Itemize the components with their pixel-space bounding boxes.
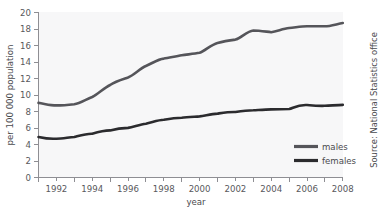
y-axis-tick-labels: 0 2 4 6 8 10 12 14 16 18 20	[20, 8, 31, 183]
y-tick-label: 8	[26, 107, 31, 117]
x-tick-label: 1998	[153, 184, 175, 194]
x-tick-label: 2008	[332, 184, 354, 194]
x-tick-label: 2006	[296, 184, 318, 194]
x-tick-label: 1996	[117, 184, 139, 194]
y-tick-label: 10	[20, 90, 31, 100]
y-tick-label: 2	[26, 156, 31, 166]
x-axis-tick-labels: 1992 1994 1996 1998 2000 2002 2004 2006 …	[45, 184, 353, 194]
x-tick-label: 1994	[81, 184, 103, 194]
line-chart: 0 2 4 6 8 10 12 14 16 18 20	[0, 0, 387, 208]
y-tick-label: 4	[26, 140, 31, 150]
y-tick-label: 12	[20, 74, 31, 84]
x-tick-label: 2000	[189, 184, 211, 194]
y-tick-label: 6	[26, 123, 31, 133]
legend-label-females: females	[322, 156, 357, 166]
y-axis-title: per 100 000 population	[5, 44, 15, 145]
x-tick-label: 2004	[260, 184, 282, 194]
chart-figure: 0 2 4 6 8 10 12 14 16 18 20	[0, 0, 387, 208]
x-tick-label: 2002	[224, 184, 246, 194]
y-tick-label: 18	[20, 24, 31, 34]
source-note: Source: National Statistics office	[369, 32, 379, 168]
y-axis-ticks	[34, 13, 39, 178]
legend-label-males: males	[322, 142, 348, 152]
y-tick-label: 16	[20, 41, 31, 51]
x-axis-ticks	[39, 178, 343, 183]
x-tick-label: 1992	[45, 184, 67, 194]
y-tick-label: 0	[26, 173, 31, 183]
y-tick-label: 14	[20, 57, 31, 67]
x-axis-title: year	[186, 197, 206, 207]
y-tick-label: 20	[20, 8, 31, 18]
plot-area-background	[38, 12, 343, 177]
